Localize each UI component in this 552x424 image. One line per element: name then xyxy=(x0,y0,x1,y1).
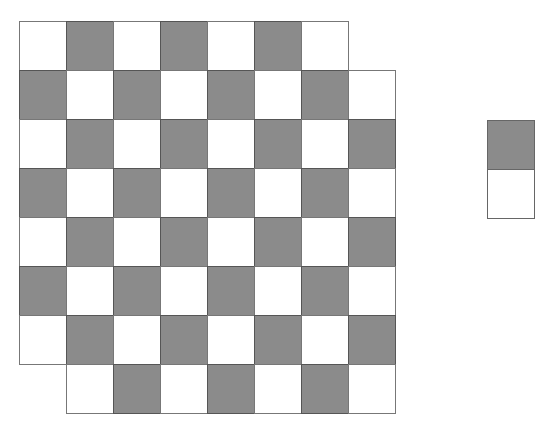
board-square-dark xyxy=(348,217,396,267)
checkerboard-diagram xyxy=(0,0,552,424)
board-square-light xyxy=(207,21,255,71)
board-square-dark xyxy=(113,266,161,316)
board-square-light xyxy=(113,217,161,267)
board-square-light xyxy=(207,217,255,267)
board-square-light xyxy=(160,70,208,120)
board-square-light xyxy=(160,168,208,218)
board-square-light xyxy=(301,119,349,169)
board-square-light xyxy=(254,266,302,316)
board-square-dark xyxy=(301,266,349,316)
board-square-dark xyxy=(254,21,302,71)
board-square-light xyxy=(160,364,208,414)
board-square-light xyxy=(301,217,349,267)
board-square-dark xyxy=(19,168,67,218)
board-square-light xyxy=(66,70,114,120)
board-square-light xyxy=(66,266,114,316)
board-square-light xyxy=(160,266,208,316)
board-square-light xyxy=(301,21,349,71)
board-square-light xyxy=(113,21,161,71)
board-square-dark xyxy=(207,364,255,414)
board-square-light xyxy=(113,315,161,365)
domino-half-light xyxy=(487,169,535,219)
board-square-dark xyxy=(160,21,208,71)
board-square-light xyxy=(207,315,255,365)
board-square-dark xyxy=(348,315,396,365)
board-square-dark xyxy=(66,21,114,71)
board-square-light xyxy=(348,266,396,316)
board-square-light xyxy=(254,168,302,218)
board-square-dark xyxy=(160,119,208,169)
board-square-dark xyxy=(254,315,302,365)
board-square-dark xyxy=(301,70,349,120)
board-square-light xyxy=(348,168,396,218)
board-square-light xyxy=(19,119,67,169)
board-square-light xyxy=(66,364,114,414)
board-square-light xyxy=(19,315,67,365)
board-square-dark xyxy=(66,217,114,267)
board-square-dark xyxy=(19,266,67,316)
board-square-dark xyxy=(113,364,161,414)
domino-half-dark xyxy=(487,120,535,170)
board-square-light xyxy=(19,217,67,267)
board-square-light xyxy=(301,315,349,365)
board-square-dark xyxy=(207,168,255,218)
board-square-light xyxy=(254,364,302,414)
board-square-light xyxy=(19,21,67,71)
board-square-dark xyxy=(160,217,208,267)
board-square-light xyxy=(207,119,255,169)
board-square-dark xyxy=(207,266,255,316)
board-square-dark xyxy=(254,217,302,267)
board-square-dark xyxy=(113,168,161,218)
board-square-dark xyxy=(207,70,255,120)
board-square-dark xyxy=(66,119,114,169)
board-square-dark xyxy=(113,70,161,120)
board-square-dark xyxy=(160,315,208,365)
board-square-light xyxy=(254,70,302,120)
board-square-dark xyxy=(254,119,302,169)
board-square-dark xyxy=(348,119,396,169)
board-square-light xyxy=(66,168,114,218)
board-square-light xyxy=(348,364,396,414)
board-square-dark xyxy=(301,364,349,414)
board-square-dark xyxy=(19,70,67,120)
board-square-dark xyxy=(66,315,114,365)
board-square-dark xyxy=(301,168,349,218)
board-square-light xyxy=(113,119,161,169)
board-square-light xyxy=(348,70,396,120)
